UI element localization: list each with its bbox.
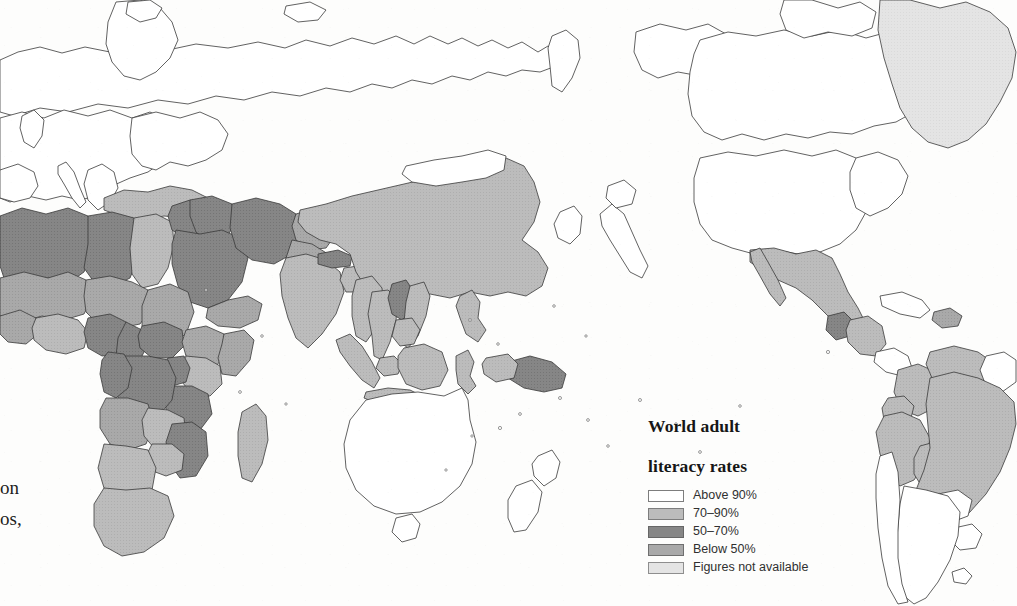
body-text-fragment: on os, xyxy=(0,472,22,534)
legend-swatch-below-50 xyxy=(648,544,684,556)
world-literacy-map xyxy=(0,0,1017,606)
legend-title: World adult literacy rates xyxy=(648,396,848,476)
legend-title-line2: literacy rates xyxy=(648,456,747,476)
legend-entry-not-available[interactable]: Figures not available xyxy=(648,559,848,576)
region-arctic-canada-islands xyxy=(780,0,876,38)
map-legend: World adult literacy rates Above 90% 70–… xyxy=(648,396,848,577)
legend-swatch-above-90 xyxy=(648,490,684,502)
region-north-africa-maghreb xyxy=(0,208,96,284)
region-car xyxy=(138,322,184,358)
legend-label-70-90: 70–90% xyxy=(693,507,739,520)
legend-label-not-available: Figures not available xyxy=(693,561,808,574)
legend-entry-above-90[interactable]: Above 90% xyxy=(648,487,848,504)
legend-label-50-70: 50–70% xyxy=(693,525,739,538)
region-borneo xyxy=(398,344,448,390)
legend-entry-70-90[interactable]: 70–90% xyxy=(648,505,848,522)
body-text-fragment-line-1: on xyxy=(0,472,22,503)
legend-swatch-50-70 xyxy=(648,526,684,538)
legend-swatch-70-90 xyxy=(648,508,684,520)
legend-title-line1: World adult xyxy=(648,416,740,436)
legend-entry-below-50[interactable]: Below 50% xyxy=(648,541,848,558)
region-usa xyxy=(694,150,872,254)
legend-entry-50-70[interactable]: 50–70% xyxy=(648,523,848,540)
atlas-map-page: World adult literacy rates Above 90% 70–… xyxy=(0,0,1017,606)
legend-swatch-not-available xyxy=(648,562,684,574)
legend-label-below-50: Below 50% xyxy=(693,543,756,556)
legend-label-above-90: Above 90% xyxy=(693,489,757,502)
body-text-fragment-line-2: os, xyxy=(0,503,22,534)
